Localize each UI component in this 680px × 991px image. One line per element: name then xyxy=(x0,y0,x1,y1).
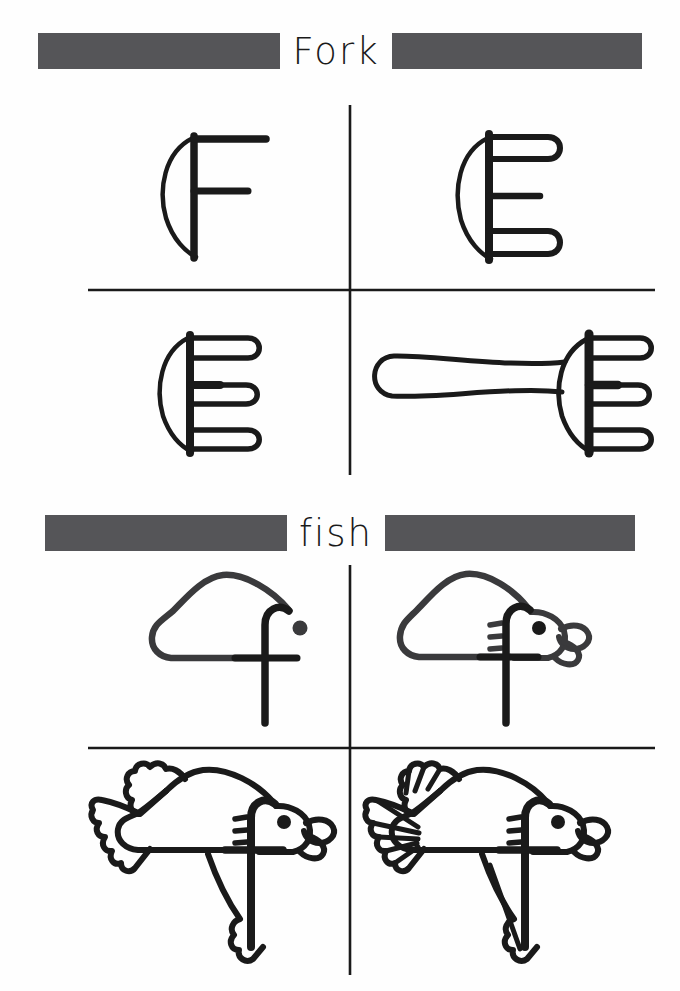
fish-step-4 xyxy=(362,757,622,972)
fish-step-2 xyxy=(398,563,608,733)
fish-step-3 xyxy=(88,757,338,967)
fish-step-1 xyxy=(145,563,335,733)
fish-eye-dot xyxy=(277,815,291,829)
fish-eye-dot xyxy=(532,621,546,635)
fork-step-4 xyxy=(362,330,662,460)
fish-eye-dot xyxy=(551,815,565,829)
fish-eye-dot xyxy=(293,621,308,636)
fork-section: Fork xyxy=(0,0,680,495)
fork-step-3 xyxy=(150,330,310,460)
fish-section: fish xyxy=(0,495,680,991)
worksheet-page: Fork xyxy=(0,0,680,991)
fork-step-2 xyxy=(448,128,608,268)
fork-step-1 xyxy=(150,130,300,265)
